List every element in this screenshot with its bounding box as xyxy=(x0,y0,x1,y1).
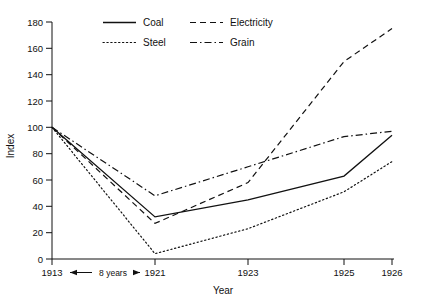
x-axis: 1913 1921 1923 1925 1926 Year xyxy=(41,259,402,296)
x-tick-label-1925: 1925 xyxy=(333,267,354,278)
legend-label-electricity: Electricity xyxy=(230,17,273,28)
x-axis-tick-labels: 1913 1921 1923 1925 1926 xyxy=(41,267,402,278)
series-line-grain xyxy=(52,127,392,196)
y-tick-label-80: 80 xyxy=(32,148,43,159)
x-tick-label-1913: 1913 xyxy=(41,267,62,278)
legend-label-grain: Grain xyxy=(230,37,254,48)
y-tick-label-0: 0 xyxy=(38,254,43,265)
legend-item-steel[interactable]: Steel xyxy=(103,37,166,48)
y-tick-label-100: 100 xyxy=(27,122,43,133)
series-line-steel xyxy=(52,127,392,253)
x-tick-label-1926: 1926 xyxy=(381,267,402,278)
arrow-right-icon xyxy=(133,270,140,275)
y-tick-label-160: 160 xyxy=(27,43,43,54)
series-line-electricity xyxy=(52,29,392,224)
y-axis: 0 20 40 60 80 100 120 140 160 180 Index xyxy=(5,17,52,265)
series-group xyxy=(52,29,392,254)
y-tick-label-120: 120 xyxy=(27,96,43,107)
y-tick-label-20: 20 xyxy=(32,227,43,238)
eight-years-annotation: 8 years xyxy=(70,268,140,278)
series-line-coal xyxy=(52,127,392,217)
x-tick-label-1923: 1923 xyxy=(237,267,258,278)
y-tick-label-140: 140 xyxy=(27,69,43,80)
arrow-left-icon xyxy=(70,270,77,275)
chart-canvas: 0 20 40 60 80 100 120 140 160 180 Index xyxy=(0,0,422,299)
legend-label-coal: Coal xyxy=(143,17,164,28)
y-tick-label-40: 40 xyxy=(32,201,43,212)
line-chart: 0 20 40 60 80 100 120 140 160 180 Index xyxy=(0,0,422,299)
x-axis-title: Year xyxy=(213,285,234,296)
y-tick-label-180: 180 xyxy=(27,17,43,28)
legend-item-coal[interactable]: Coal xyxy=(103,17,164,28)
y-axis-ticks xyxy=(46,22,52,259)
legend-label-steel: Steel xyxy=(143,37,166,48)
y-axis-title: Index xyxy=(5,134,16,158)
x-tick-label-1921: 1921 xyxy=(144,267,165,278)
legend-item-grain[interactable]: Grain xyxy=(190,37,254,48)
y-axis-tick-labels: 0 20 40 60 80 100 120 140 160 180 xyxy=(27,17,43,265)
legend: Coal Electricity Steel Grain xyxy=(103,17,273,48)
legend-item-electricity[interactable]: Electricity xyxy=(190,17,273,28)
y-tick-label-60: 60 xyxy=(32,175,43,186)
span-label: 8 years xyxy=(99,268,127,278)
x-axis-ticks xyxy=(52,259,392,265)
